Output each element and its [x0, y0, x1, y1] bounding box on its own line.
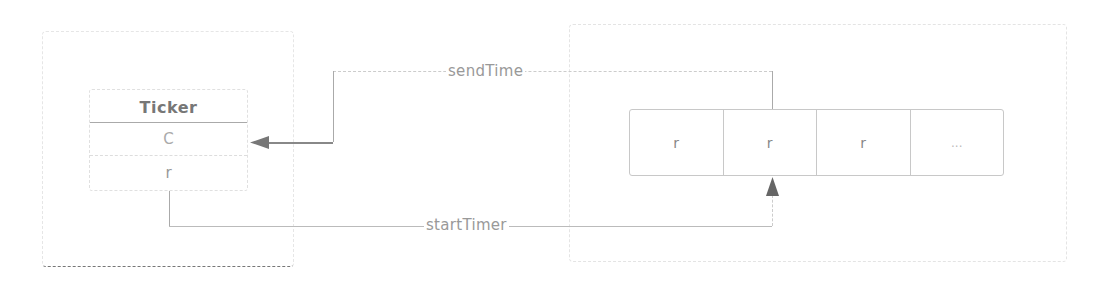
queue-cell: r: [817, 110, 911, 175]
start-timer-edge-segment: [169, 191, 170, 226]
ticker-title: Ticker: [90, 90, 247, 123]
send-time-edge-segment: [266, 142, 333, 144]
queue-cell-ellipsis: ...: [911, 110, 1004, 175]
arrow-left-icon: [250, 135, 270, 150]
timer-queue: r r r ...: [629, 109, 1004, 176]
send-time-label: sendTime: [446, 62, 525, 80]
ticker-struct: Ticker C r: [89, 89, 248, 191]
send-time-edge-segment: [333, 71, 772, 72]
start-timer-label: startTimer: [424, 216, 509, 234]
queue-cell: r: [724, 110, 818, 175]
arrow-up-icon: [765, 177, 780, 197]
send-time-edge-segment: [772, 71, 773, 109]
send-time-edge-segment: [333, 71, 334, 142]
start-timer-edge-segment: [772, 195, 773, 226]
queue-cell: r: [630, 110, 724, 175]
ticker-field-c: C: [90, 123, 247, 156]
ticker-field-r: r: [90, 156, 247, 190]
